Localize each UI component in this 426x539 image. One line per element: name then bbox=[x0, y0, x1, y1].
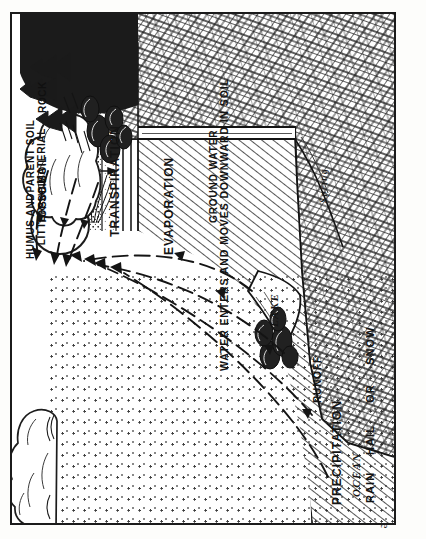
soil-label-parent-soil-material: PARENT SOIL MATERIAL bbox=[26, 117, 47, 195]
label-lake: LAKE bbox=[268, 293, 280, 327]
diagram-page: United States Forest Service bbox=[0, 0, 426, 539]
label-transpiration: TRANSPIRATION bbox=[108, 125, 122, 237]
label-rain: RAIN bbox=[364, 472, 376, 503]
label-or: OR bbox=[364, 384, 376, 403]
label-ocean: OCEAN bbox=[350, 452, 362, 497]
label-ground-water: GROUND WATER bbox=[208, 130, 219, 223]
label-snow: SNOW bbox=[364, 326, 376, 365]
label-spring: Spring bbox=[318, 168, 329, 203]
diagram-canvas: PRECIPITATION RAIN HAIL OR SNOW EVAPORAT… bbox=[12, 14, 394, 523]
label-evaporation: EVAPORATION bbox=[162, 157, 176, 255]
label-runoff: RUNOFF bbox=[312, 356, 323, 403]
soil-label-rock: ROCK bbox=[38, 67, 49, 127]
diagram-frame: PRECIPITATION RAIN HAIL OR SNOW EVAPORAT… bbox=[10, 12, 396, 525]
label-hail: HAIL bbox=[364, 425, 376, 455]
label-precipitation: PRECIPITATION bbox=[330, 400, 344, 505]
label-infiltration: WATER ENTERS AND MOVES DOWNWARD IN SOIL bbox=[218, 78, 230, 371]
